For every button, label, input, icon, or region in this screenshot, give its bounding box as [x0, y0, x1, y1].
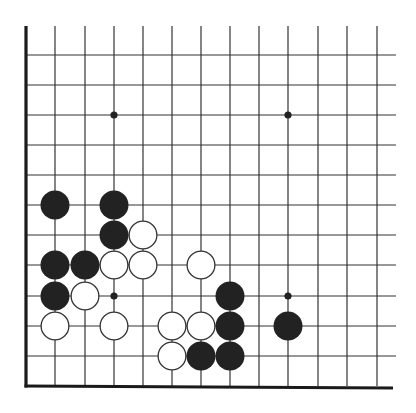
black-stone[interactable]	[187, 342, 216, 371]
go-board[interactable]	[0, 0, 416, 413]
white-stone[interactable]	[41, 312, 69, 340]
star-point	[110, 111, 117, 118]
black-stone[interactable]	[100, 221, 129, 250]
white-stone[interactable]	[71, 282, 99, 310]
star-point	[110, 292, 117, 299]
black-stone[interactable]	[216, 342, 245, 371]
white-stone[interactable]	[158, 312, 186, 340]
white-stone[interactable]	[100, 312, 128, 340]
white-stone[interactable]	[187, 251, 215, 279]
white-stone[interactable]	[187, 312, 215, 340]
white-stone[interactable]	[129, 221, 157, 249]
white-stone[interactable]	[129, 251, 157, 279]
black-stone[interactable]	[274, 312, 303, 341]
star-point	[284, 292, 291, 299]
black-stone[interactable]	[100, 191, 129, 220]
star-point	[284, 111, 291, 118]
white-stone[interactable]	[100, 251, 128, 279]
black-stone[interactable]	[41, 191, 70, 220]
black-stone[interactable]	[41, 251, 70, 280]
board-edge-bottom	[25, 386, 394, 388]
black-stone[interactable]	[216, 312, 245, 341]
black-stone[interactable]	[216, 282, 245, 311]
black-stone[interactable]	[71, 251, 100, 280]
black-stone[interactable]	[41, 282, 70, 311]
white-stone[interactable]	[158, 342, 186, 370]
